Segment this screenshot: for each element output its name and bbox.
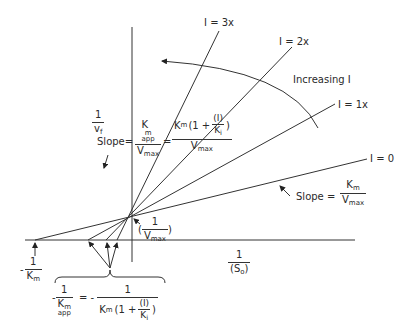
label-i-3x: I = 3x [204,18,234,28]
slope-equals: = [163,137,171,147]
slope-km-expanded: Km (1 + (I) Ki ) Vmax [172,114,232,153]
label-i-0: I = 0 [370,154,394,164]
label-i-1x: I = 1x [338,100,368,110]
x-axis-label: 1 (So) [228,250,250,276]
slope-inhibited-prefix: Slope= [97,137,133,147]
slope-uninhibited-prefix: Slope = [296,192,335,202]
slope-km-over-vmax: Km Vmax [340,180,366,208]
plot-canvas [0,0,413,332]
label-increasing-i: Increasing I [293,75,351,85]
km-app-equation: - 1 Kmapp = - 1 Km (1 + (I) Ki ) [52,285,158,322]
y-intercept-label: ( 1 Vmax ) [138,217,172,243]
label-i-2x: I = 2x [279,37,309,47]
slope-kmapp-over-vmax: Kmapp Vmax [135,120,161,159]
brace [55,270,165,283]
y-axis-label: 1 vf [92,110,104,136]
x-intercept-label: - 1 Km [20,257,42,283]
